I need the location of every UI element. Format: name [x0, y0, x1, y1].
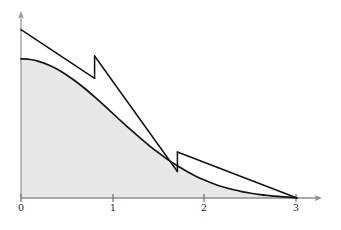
figure-container: 0 1 2 3 — [0, 0, 341, 230]
x-tick-label-2: 2 — [194, 203, 214, 213]
x-tick-label-1: 1 — [103, 203, 123, 213]
chart-plot-area — [0, 0, 341, 230]
x-tick-label-0: 0 — [11, 203, 31, 213]
x-tick-label-3: 3 — [286, 203, 306, 213]
area-under-curve-fill — [21, 59, 297, 198]
